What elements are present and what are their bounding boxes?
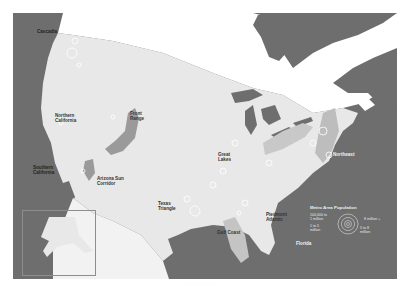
region-label-northeast: Northeast — [333, 152, 354, 157]
legend-item-small: 100,000 to 1 million — [310, 213, 327, 221]
region-label-front-range: Front Range — [130, 111, 144, 121]
region-label-southern-california: Southern California — [33, 165, 54, 175]
map-canvas: Cascadia Northern California Southern Ca… — [13, 13, 397, 279]
map-caption: · · · · · · · · · · — [140, 282, 270, 288]
region-label-cascadia: Cascadia — [37, 29, 57, 34]
alaska-shape — [23, 211, 95, 275]
region-label-arizona-sun-corridor: Arizona Sun Corridor — [97, 176, 124, 186]
region-label-florida: Florida — [296, 241, 311, 246]
legend-item-largest: 8 million + — [364, 217, 380, 221]
alaska-inset — [22, 210, 96, 276]
legend-item-large: 5 to 8 million — [360, 226, 370, 234]
region-label-gulf-coast: Gulf Coast — [217, 230, 240, 235]
population-legend: Metro Area Population 100,000 to 1 milli… — [308, 205, 388, 241]
legend-item-medium: 1 to 5 million — [310, 224, 320, 232]
legend-title: Metro Area Population — [310, 205, 357, 210]
region-label-great-lakes: Great Lakes — [218, 152, 231, 162]
region-label-piedmont-atlantic: Piedmont Atlantic — [266, 212, 287, 222]
region-label-northern-california: Northern California — [55, 113, 76, 123]
region-label-texas-triangle: Texas Triangle — [158, 201, 176, 211]
